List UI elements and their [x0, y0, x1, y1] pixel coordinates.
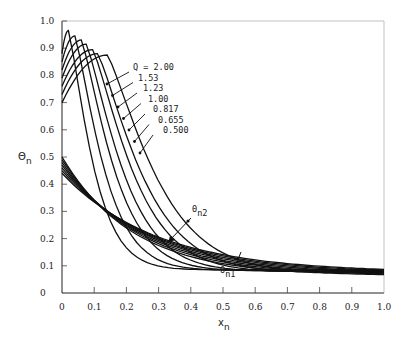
x-tick-label: 0.9 [345, 302, 360, 312]
legend-label: 0.500 [163, 125, 189, 135]
y-tick-label: 0.3 [40, 206, 55, 216]
x-tick-label: 0.1 [87, 302, 101, 312]
y-tick-label: 0.9 [40, 43, 55, 53]
x-axis-ticks: 00.10.20.30.40.50.60.70.80.91.0 [59, 287, 392, 312]
data-curves [62, 31, 384, 275]
y-tick-label: 0.4 [40, 179, 55, 189]
legend-label: 0.655 [158, 115, 184, 125]
x-axis-label: xn [218, 317, 230, 332]
y-tick-label: 0.5 [40, 152, 55, 162]
y-tick-label: 0.6 [40, 125, 55, 135]
legend-label: 1.23 [143, 83, 163, 93]
legend-callouts: Q = 2.001.531.231.000.8170.6550.500 [106, 62, 189, 154]
y-tick-label: 0 [40, 288, 46, 298]
y-axis-label: Θn [18, 151, 32, 166]
annotation-theta-n2: Θn2 [168, 204, 207, 243]
x-tick-label: 0.4 [184, 302, 199, 312]
x-tick-label: 0.3 [152, 302, 167, 312]
legend-label: 1.53 [138, 73, 158, 83]
chart: 00.10.20.30.40.50.60.70.80.91.0 00.10.20… [0, 0, 407, 345]
y-tick-label: 1.0 [40, 16, 55, 26]
legend-label: Q = 2.00 [133, 62, 174, 72]
svg-text:Θn2: Θn2 [192, 204, 207, 218]
x-tick-label: 1.0 [377, 302, 392, 312]
x-tick-label: 0.2 [119, 302, 133, 312]
legend-label: 1.00 [148, 94, 168, 104]
y-tick-label: 0.2 [40, 234, 54, 244]
y-tick-label: 0.1 [40, 261, 54, 271]
x-tick-label: 0.5 [216, 302, 231, 312]
x-tick-label: 0.6 [248, 302, 263, 312]
x-tick-label: 0.8 [313, 302, 328, 312]
y-tick-label: 0.7 [40, 98, 55, 108]
legend-label: 0.817 [153, 104, 179, 114]
x-tick-label: 0.7 [280, 302, 295, 312]
y-tick-label: 0.8 [40, 70, 55, 80]
x-tick-label: 0 [59, 302, 65, 312]
